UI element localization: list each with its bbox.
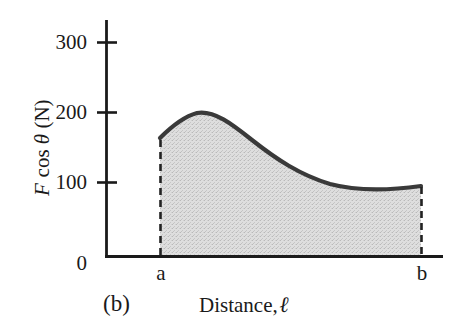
x-axis-title-text: Distance, [199, 293, 278, 317]
y-axis-title-f: F [30, 183, 54, 196]
x-tick-label-b: b [407, 263, 437, 284]
shaded-work-area [160, 113, 421, 256]
panel-label: (b) [103, 292, 130, 315]
x-axis-title: Distance,ℓ [199, 294, 289, 316]
y-tick-label-0: 0 [59, 253, 87, 274]
y-axis-title-cos: cos [30, 149, 54, 177]
y-axis-title-units: (N) [30, 99, 54, 128]
ell-symbol: ℓ [278, 292, 289, 317]
y-tick-label-300: 300 [27, 32, 87, 53]
y-axis-title: F cos θ (N) [32, 99, 53, 196]
x-tick-label-a: a [146, 263, 176, 284]
theta-symbol: θ [30, 134, 54, 144]
figure-panel-b: 300 200 100 0 F cos θ (N) a b (b) Distan… [0, 0, 467, 329]
